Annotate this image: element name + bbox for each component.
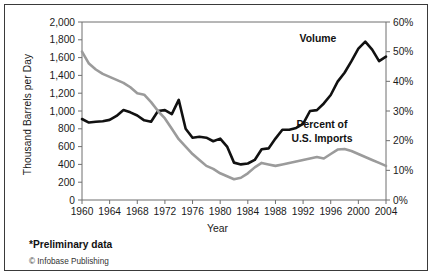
chart-figure: Thousand Barrels per Day Year *Prelimina… (0, 0, 433, 276)
x-tick-label: 1992 (292, 206, 315, 217)
x-tick-label: 2000 (347, 206, 370, 217)
y2-tick-label: 50% (393, 46, 413, 57)
x-tick-label: 1960 (71, 206, 94, 217)
y2-tick-label: 30% (393, 106, 413, 117)
series-volume-line (82, 42, 386, 165)
y-tick-label: 1,800 (50, 34, 76, 45)
x-tick-label: 1964 (98, 206, 121, 217)
y2-tick-label: 0% (393, 195, 408, 206)
x-tick-label: 1968 (126, 206, 149, 217)
annotation-percent-line1: Percent of (297, 119, 348, 130)
y-tick-label: 1,200 (50, 88, 76, 99)
y-tick-label: 1,400 (50, 70, 76, 81)
annotation-volume: Volume (300, 33, 337, 44)
x-tick-label: 1996 (319, 206, 342, 217)
plot-area: 02004006008001,0001,2001,4001,6001,8002,… (0, 0, 433, 276)
y-tick-label: 2,000 (50, 17, 76, 28)
x-tick-label: 2004 (375, 206, 398, 217)
annotation-percent-line2: U.S. Imports (291, 133, 352, 144)
y-tick-label: 200 (58, 177, 75, 188)
x-tick-label: 1976 (181, 206, 204, 217)
y-tick-label: 400 (58, 159, 75, 170)
y-tick-label: 800 (58, 123, 75, 134)
y2-tick-label: 60% (393, 17, 413, 28)
chart-svg: 02004006008001,0001,2001,4001,6001,8002,… (0, 0, 433, 276)
y-tick-label: 0 (69, 195, 75, 206)
y-tick-label: 1,000 (50, 106, 76, 117)
x-tick-label: 1984 (236, 206, 259, 217)
y-tick-label: 1,600 (50, 52, 76, 63)
x-tick-label: 1988 (264, 206, 287, 217)
x-tick-label: 1980 (209, 206, 232, 217)
y-tick-label: 600 (58, 141, 75, 152)
y2-tick-label: 20% (393, 135, 413, 146)
y2-tick-label: 10% (393, 165, 413, 176)
x-tick-label: 1972 (154, 206, 177, 217)
y2-tick-label: 40% (393, 76, 413, 87)
